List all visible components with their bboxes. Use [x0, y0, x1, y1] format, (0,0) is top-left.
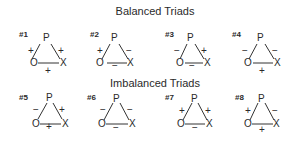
node-x: X — [273, 119, 280, 129]
node-x: X — [127, 58, 134, 68]
triad-7: #7 P O X + + − — [165, 93, 235, 138]
node-o: O — [244, 58, 252, 68]
sign-o-x: + — [46, 122, 52, 132]
triad-6: #6 P O X − − − — [87, 93, 157, 138]
node-p: P — [257, 33, 264, 43]
node-o: O — [98, 119, 106, 129]
node-x: X — [206, 119, 213, 129]
sign-o-x: − — [192, 123, 198, 133]
sign-o-x: − — [189, 61, 195, 71]
sign-o-x: − — [113, 123, 119, 133]
triad-3: #3 P O X − + − — [165, 30, 235, 75]
sign-o-p: − — [33, 105, 39, 115]
triangle-edges — [87, 93, 157, 138]
node-x: X — [60, 58, 67, 68]
node-p: P — [46, 93, 53, 103]
imbalanced-triads-title: Imbalanced Triads — [0, 77, 295, 89]
triangle-edges — [19, 93, 89, 138]
sign-p-x: − — [127, 105, 133, 115]
triad-4: #4 P O X − − + — [232, 30, 295, 75]
node-p: P — [187, 33, 194, 43]
sign-o-p: + — [28, 46, 34, 56]
node-o: O — [177, 119, 185, 129]
sign-o-p: − — [174, 46, 180, 56]
node-p: P — [111, 33, 118, 43]
node-x: X — [62, 119, 69, 129]
triad-8: #8 P O X + − + — [235, 93, 295, 138]
sign-p-x: + — [201, 46, 207, 56]
sign-p-x: + — [58, 46, 64, 56]
node-p: P — [43, 33, 50, 43]
triangle-edges — [235, 93, 295, 138]
sign-o-x: + — [259, 125, 265, 135]
sign-p-x: + — [59, 105, 65, 115]
node-p: P — [258, 94, 265, 104]
sign-o-p: + — [97, 46, 103, 56]
node-p: P — [113, 94, 120, 104]
node-x: X — [129, 119, 136, 129]
sign-o-x: − — [112, 61, 118, 71]
triad-5: #5 P O X − + + — [19, 93, 89, 138]
node-o: O — [32, 119, 40, 129]
triad-1: #1 P O X + + + — [19, 30, 89, 75]
node-x: X — [274, 58, 281, 68]
sign-o-p: + — [245, 106, 251, 116]
node-p: P — [191, 94, 198, 104]
balanced-triads-title: Balanced Triads — [0, 5, 295, 17]
node-o: O — [244, 119, 252, 129]
sign-p-x: − — [272, 106, 278, 116]
node-o: O — [96, 58, 104, 68]
sign-o-p: − — [242, 46, 248, 56]
sign-p-x: − — [272, 46, 278, 56]
triad-2: #2 P O X + − − — [90, 30, 160, 75]
sign-o-p: + — [179, 106, 185, 116]
node-x: X — [204, 58, 211, 68]
node-o: O — [176, 58, 184, 68]
triangle-edges — [165, 93, 235, 138]
sign-p-x: − — [126, 46, 132, 56]
node-o: O — [30, 58, 38, 68]
sign-o-x: + — [259, 66, 265, 76]
sign-p-x: + — [205, 106, 211, 116]
sign-o-p: − — [100, 105, 106, 115]
sign-o-x: + — [45, 66, 51, 76]
